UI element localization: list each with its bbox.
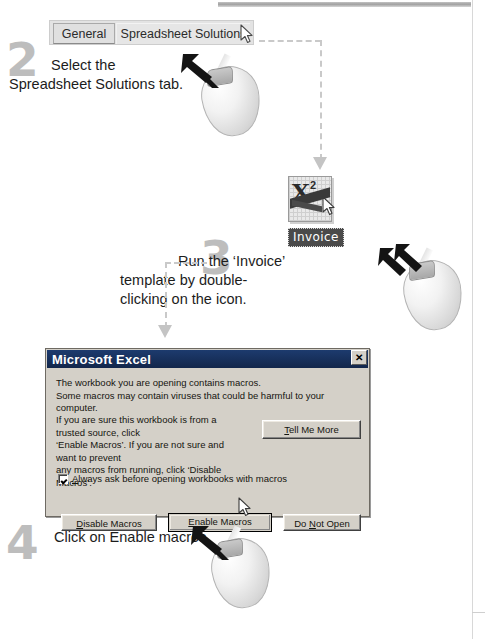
templates-tab-strip: General Spreadsheet Solutions: [49, 20, 254, 45]
mouse-graphic-step4: [190, 524, 300, 614]
click-arrow-icon: [179, 48, 233, 92]
top-decorative-bar: [218, 2, 471, 7]
invoice-icon-label[interactable]: Invoice: [288, 228, 344, 247]
double-click-arrow-icon: [378, 240, 440, 286]
tutorial-page: General Spreadsheet Solutions 2 Select t…: [0, 0, 490, 639]
mouse-pointer-icon-over-enable-macros: [238, 497, 252, 517]
step-text-3: Run the ‘Invoice’ template by double- cl…: [120, 252, 295, 309]
tab-general[interactable]: General: [53, 23, 115, 44]
tab-spreadsheet-solutions[interactable]: Spreadsheet Solutions: [116, 23, 250, 44]
mouse-graphic-step3: [382, 246, 490, 336]
excel-macro-warning-dialog: Microsoft Excel ✕ The workbook you are o…: [45, 348, 370, 517]
mouse-pointer-icon-over-invoice: [322, 196, 336, 216]
page-bottom-rule: [472, 612, 485, 613]
dialog-title-text: Microsoft Excel: [47, 352, 151, 367]
tell-me-more-button[interactable]: Tell Me More: [262, 420, 361, 439]
click-arrow-icon: [189, 520, 243, 564]
step-text-2: Select the Spreadsheet Solutions tab.: [9, 56, 199, 94]
excel-superscript-glyph: 2: [310, 179, 316, 191]
dialog-body: The workbook you are opening contains ma…: [46, 368, 369, 516]
always-ask-checkbox-label: Always ask before opening workbooks with…: [72, 473, 287, 484]
mouse-graphic-step2: [180, 52, 290, 140]
always-ask-checkbox-row[interactable]: Always ask before opening workbooks with…: [58, 473, 287, 484]
mouse-pointer-icon: [240, 24, 254, 44]
dialog-title-bar: Microsoft Excel: [47, 350, 368, 368]
do-not-open-accesskey: N: [309, 518, 316, 529]
do-not-open-label: ot Open: [316, 518, 350, 529]
tell-me-more-label: ell Me More: [289, 424, 339, 435]
checkbox-icon[interactable]: [58, 474, 68, 484]
close-icon[interactable]: ✕: [351, 350, 367, 365]
dialog-paragraph-1: The workbook you are opening contains ma…: [56, 377, 356, 415]
